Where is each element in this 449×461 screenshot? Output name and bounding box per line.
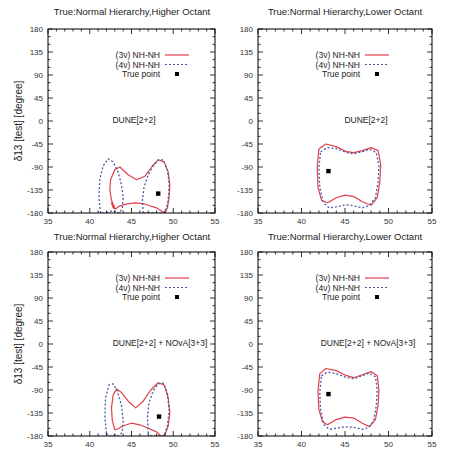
y-tick-label: 45 [244, 317, 253, 326]
y-tick-label: -180 [27, 209, 44, 218]
experiment-annotation: DUNE[2+2] + NOvA[3+3] [113, 338, 208, 348]
legend-swatch-true-point [375, 295, 379, 299]
y-tick-label: 90 [34, 71, 43, 80]
legend: (3ν) NH-NH(4ν) NH-NHTrue point [116, 273, 189, 302]
panel-title: True:Normal Hierarchy,Higher Octant [54, 231, 211, 242]
x-tick-label: 35 [254, 217, 263, 226]
panel-title: True:Normal Hierarchy,Higher Octant [54, 6, 211, 17]
x-tick-label: 50 [384, 217, 393, 226]
legend-label: True point [122, 292, 161, 302]
x-tick-label: 45 [341, 217, 350, 226]
x-tick-label: 40 [85, 440, 94, 449]
experiment-annotation: DUNE[2+2] + NOvA[3+3] [321, 338, 416, 348]
y-tick-label: 45 [34, 94, 43, 103]
y-tick-label: 45 [244, 94, 253, 103]
panel-top-left: True:Normal Hierarchy,Higher Octant35404… [27, 6, 220, 226]
legend: (3ν) NH-NH(4ν) NH-NHTrue point [316, 273, 389, 302]
contours [317, 144, 381, 208]
y-tick-label: 135 [30, 48, 44, 57]
x-tick-label: 50 [384, 440, 393, 449]
y-tick-label: -45 [241, 363, 253, 372]
legend-label: (4ν) NH-NH [116, 283, 160, 293]
x-tick-label: 45 [341, 440, 350, 449]
y-tick-label: -45 [241, 140, 253, 149]
y-tick-label: -180 [237, 209, 254, 218]
y-tick-label: -135 [27, 186, 44, 195]
x-tick-label: 40 [297, 440, 306, 449]
y-tick-label: -45 [31, 140, 43, 149]
y-tick-label: -90 [31, 386, 43, 395]
legend: (3ν) NH-NH(4ν) NH-NHTrue point [316, 50, 389, 79]
y-tick-label: 180 [30, 25, 44, 34]
x-tick-label: 55 [428, 217, 437, 226]
y-tick-label: 0 [249, 117, 254, 126]
y-tick-label: 0 [39, 117, 44, 126]
legend-label: (3ν) NH-NH [116, 273, 160, 283]
figure-canvas: δ13 [test] [degree] δ13 [test] [degree] … [0, 0, 449, 461]
x-tick-label: 45 [127, 440, 136, 449]
experiment-annotation: DUNE[2+2] [344, 115, 387, 125]
y-tick-label: -135 [237, 186, 254, 195]
y-tick-label: 135 [240, 271, 254, 280]
y-tick-label: -90 [241, 386, 253, 395]
legend-label: (3ν) NH-NH [316, 50, 360, 60]
y-tick-label: -45 [31, 363, 43, 372]
true-point-marker [157, 414, 161, 418]
contour-3nu [110, 160, 170, 213]
y-tick-label: -90 [31, 163, 43, 172]
x-tick-label: 40 [85, 217, 94, 226]
legend-label: (4ν) NH-NH [316, 283, 360, 293]
y-tick-label: 135 [240, 48, 254, 57]
x-tick-label: 40 [297, 217, 306, 226]
legend-label: True point [322, 292, 361, 302]
contour-3nu [317, 144, 381, 205]
y-tick-label: 180 [240, 248, 254, 257]
contour-4nu [319, 148, 379, 208]
y-tick-label: 45 [34, 317, 43, 326]
contours [99, 159, 170, 213]
legend-label: True point [322, 69, 361, 79]
y-tick-label: 90 [244, 294, 253, 303]
y-axis-label-top: δ13 [test] [degree] [13, 80, 24, 161]
panel-bottom-right: True:Normal Hierarchy,Lower Octant354045… [237, 231, 437, 449]
x-tick-label: 50 [169, 440, 178, 449]
legend-label: (4ν) NH-NH [116, 60, 160, 70]
y-tick-label: 90 [34, 294, 43, 303]
contours [105, 383, 170, 436]
panel-bottom-left: True:Normal Hierarchy,Higher Octant35404… [27, 231, 220, 449]
legend-label: (3ν) NH-NH [316, 273, 360, 283]
contour-3nu [318, 369, 379, 427]
true-point-marker [156, 191, 160, 195]
legend-swatch-true-point [375, 72, 379, 76]
y-axis-label-bottom: δ13 [test] [degree] [13, 303, 24, 384]
experiment-annotation: DUNE[2+2] [112, 115, 155, 125]
contours [318, 369, 379, 430]
legend-swatch-true-point [175, 72, 179, 76]
y-tick-label: 0 [39, 340, 44, 349]
x-tick-label: 35 [44, 217, 53, 226]
x-tick-label: 35 [44, 440, 53, 449]
x-tick-label: 45 [127, 217, 136, 226]
x-tick-label: 35 [254, 440, 263, 449]
x-tick-label: 55 [428, 440, 437, 449]
y-tick-label: -180 [237, 432, 254, 441]
y-tick-label: -180 [27, 432, 44, 441]
y-tick-label: 0 [249, 340, 254, 349]
legend: (3ν) NH-NH(4ν) NH-NHTrue point [116, 50, 189, 79]
y-tick-label: 135 [30, 271, 44, 280]
legend-label: True point [122, 69, 161, 79]
y-tick-label: 180 [240, 25, 254, 34]
panel-top-right: True:Normal Hierarchy,Lower Octant354045… [237, 6, 437, 226]
y-tick-label: 180 [30, 248, 44, 257]
panel-title: True:Normal Hierarchy,Lower Octant [268, 231, 423, 242]
true-point-marker [326, 392, 330, 396]
y-tick-label: 90 [244, 71, 253, 80]
true-point-marker [326, 169, 330, 173]
y-tick-label: -135 [27, 409, 44, 418]
x-tick-label: 55 [211, 440, 220, 449]
legend-label: (3ν) NH-NH [116, 50, 160, 60]
y-tick-label: -90 [241, 163, 253, 172]
panel-title: True:Normal Hierarchy,Lower Octant [268, 6, 423, 17]
contour-4nu [320, 372, 377, 429]
legend-label: (4ν) NH-NH [316, 60, 360, 70]
